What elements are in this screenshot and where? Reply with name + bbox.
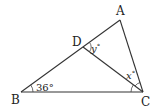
triangle-diagram: A B C D 36° y° x° <box>0 0 160 111</box>
angle-label-y: y° <box>90 43 100 54</box>
label-b: B <box>11 93 20 107</box>
label-d: D <box>72 35 82 49</box>
diagram-canvas: A B C D 36° y° x° <box>0 0 160 111</box>
angle-deg-x: ° <box>132 70 136 78</box>
angle-deg-y: ° <box>97 43 101 51</box>
angle-arc-b <box>31 85 33 92</box>
angle-label-b: 36° <box>36 82 54 93</box>
label-c: C <box>141 95 150 109</box>
segment-ca <box>120 20 143 92</box>
angle-arc-c-lower <box>131 85 133 92</box>
angle-label-x: x° <box>126 70 135 81</box>
angle-arc-c-x <box>135 83 140 87</box>
label-a: A <box>115 4 125 18</box>
